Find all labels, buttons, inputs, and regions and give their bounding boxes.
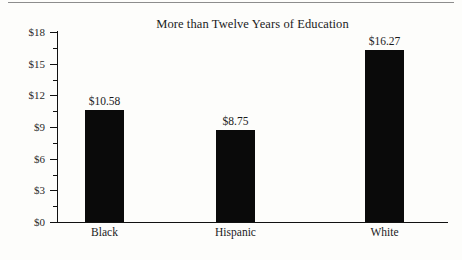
y-tick-label: $18 [0, 26, 45, 38]
y-tick-minor [53, 175, 58, 176]
x-category-label: Black [55, 226, 155, 238]
y-tick-minor [53, 111, 58, 112]
y-tick-minor [53, 143, 58, 144]
y-tick-minor [53, 80, 58, 81]
bar-chart-figure: More than Twelve Years of Education $0$3… [0, 0, 462, 260]
x-axis-line [57, 222, 448, 223]
y-tick-major [50, 64, 58, 65]
y-tick-minor [53, 206, 58, 207]
bar-value-label: $10.58 [65, 95, 145, 107]
y-tick-label: $6 [0, 153, 45, 165]
bar-value-label: $16.27 [345, 35, 425, 47]
y-tick-major [50, 159, 58, 160]
x-category-label: White [335, 226, 435, 238]
y-tick-major [50, 190, 58, 191]
plot-area: More than Twelve Years of Education $0$3… [0, 0, 462, 260]
bar-black [85, 110, 124, 222]
bar-hispanic [216, 130, 255, 222]
bar-value-label: $8.75 [196, 115, 276, 127]
y-tick-major [50, 127, 58, 128]
y-tick-major [50, 32, 58, 33]
bar-white [365, 50, 404, 222]
chart-title: More than Twelve Years of Education [57, 17, 448, 32]
y-tick-label: $15 [0, 58, 45, 70]
x-category-label: Hispanic [186, 226, 286, 238]
y-tick-label: $12 [0, 89, 45, 101]
y-tick-major [50, 222, 58, 223]
y-tick-major [50, 95, 58, 96]
y-tick-label: $9 [0, 121, 45, 133]
y-tick-label: $0 [0, 216, 45, 228]
y-tick-label: $3 [0, 184, 45, 196]
y-tick-minor [53, 48, 58, 49]
